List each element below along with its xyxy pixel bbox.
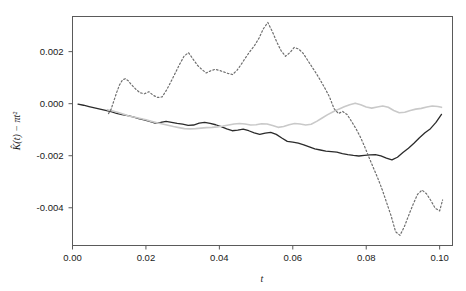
plot-figure: 0.000.020.040.060.080.10 0.0020.000-0.00… [0,0,466,291]
x-tick-label-5: 0.10 [430,252,449,263]
x-tick-label-0: 0.00 [63,252,82,263]
x-tick-label-3: 0.06 [284,252,303,263]
y-tick-label-1: 0.000 [40,98,64,109]
x-tick-label-4: 0.08 [357,252,376,263]
figure-background [0,0,466,291]
y-axis-label-text: K̂(t) − πt² [10,111,23,152]
y-tick-label-3: -0.004 [37,202,64,213]
x-tick-label-2: 0.04 [210,252,229,263]
y-tick-label-0: 0.002 [40,46,64,57]
y-tick-label-2: -0.002 [37,150,64,161]
y-axis-label: K̂(t) − πt² [10,111,23,152]
x-axis-label: t [261,273,264,284]
x-tick-label-1: 0.02 [137,252,156,263]
